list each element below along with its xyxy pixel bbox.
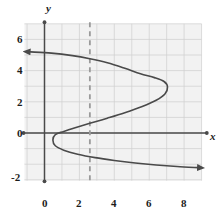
x-tick-label-8: 8: [181, 198, 187, 209]
coordinate-plane-svg: [0, 0, 222, 219]
x-tick-label-6: 6: [146, 198, 152, 209]
y-tick-label-neg2: -2: [11, 172, 20, 183]
plot-background: [24, 24, 201, 181]
y-tick-label-0: 0: [17, 128, 23, 139]
x-tick-label-2: 2: [76, 198, 82, 209]
y-tick-label-6: 6: [17, 34, 23, 45]
graph-figure: 6 4 2 0 -2 0 2 4 6 8 y x: [0, 0, 222, 219]
x-tick-label-0: 0: [42, 198, 48, 209]
y-tick-label-2: 2: [17, 97, 23, 108]
x-tick-label-4: 4: [111, 198, 117, 209]
y-axis-label: y: [46, 3, 51, 14]
y-tick-label-4: 4: [17, 65, 23, 76]
x-axis-label: x: [210, 131, 216, 142]
